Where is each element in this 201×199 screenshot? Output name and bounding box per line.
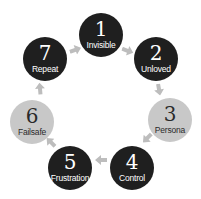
node-6-failsafe: 6 Failsafe [10, 100, 54, 144]
node-label: Unloved [141, 64, 171, 74]
node-label: Control [119, 173, 145, 183]
node-number: 2 [150, 43, 163, 63]
node-label: Invisible [87, 40, 116, 50]
node-label: Persona [155, 125, 185, 135]
node-1-invisible: 1 Invisible [79, 13, 123, 57]
node-2-unloved: 2 Unloved [134, 37, 178, 81]
node-number: 4 [126, 152, 139, 172]
node-3-persona: 3 Persona [148, 98, 192, 142]
node-number: 5 [64, 152, 77, 172]
arrow-right-icon [157, 82, 169, 96]
arrow-right-icon [95, 159, 107, 169]
node-7-repeat: 7 Repeat [23, 37, 67, 81]
arrow-right-icon [30, 83, 41, 96]
node-label: Frustration [51, 173, 89, 183]
node-number: 7 [39, 43, 52, 63]
node-5-frustration: 5 Frustration [48, 146, 92, 190]
node-label: Failsafe [18, 127, 46, 137]
node-number: 3 [164, 104, 177, 124]
node-number: 6 [26, 106, 39, 126]
node-label: Repeat [32, 64, 58, 74]
node-4-control: 4 Control [110, 146, 154, 190]
node-number: 1 [95, 19, 108, 39]
cycle-diagram: 1 Invisible 2 Unloved 3 Persona 4 Contro… [0, 0, 201, 199]
